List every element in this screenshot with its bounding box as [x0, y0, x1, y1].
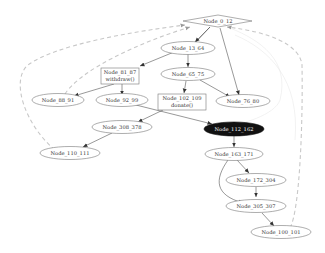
node-label: Node_305_307: [236, 203, 275, 210]
node-305-307[interactable]: Node_305_307: [226, 200, 286, 213]
node-65-75[interactable]: Node_65_75: [161, 68, 215, 81]
node-sublabel: withdraw(): [106, 76, 135, 82]
node-92-99[interactable]: Node_92_99: [96, 94, 148, 107]
node-110-111[interactable]: Node_110_111: [40, 147, 100, 160]
node-13-64[interactable]: Node_13_64: [161, 42, 215, 55]
node-76-80[interactable]: Node_76_80: [216, 95, 270, 108]
node-label: Node_65_75: [172, 71, 204, 78]
node-0-12[interactable]: Node_0_12: [183, 15, 252, 27]
node-label: Node_100_101: [261, 229, 300, 236]
node-88-91[interactable]: Node_88_91: [32, 94, 84, 107]
graph-canvas: Node_0_12 Node_13_64 Node_81_87 withdraw…: [0, 0, 325, 253]
node-100-101[interactable]: Node_100_101: [251, 226, 311, 239]
node-308-378[interactable]: Node_308_378: [92, 121, 152, 134]
node-label: Node_76_80: [227, 98, 259, 105]
node-sublabel: donate(): [171, 102, 193, 108]
node-label: Node_163_171: [214, 151, 253, 158]
node-label: Node_13_64: [172, 45, 205, 52]
node-label: Node_112_162: [214, 126, 253, 133]
node-112-162[interactable]: Node_112_162: [204, 122, 264, 136]
node-81-87[interactable]: Node_81_87 withdraw(): [101, 68, 139, 84]
node-label: Node_88_91: [42, 97, 74, 104]
node-label: Node_308_378: [102, 124, 141, 131]
node-label: Node_0_12: [203, 18, 232, 25]
node-label: Node_110_111: [50, 150, 89, 157]
node-172-304[interactable]: Node_172_304: [226, 174, 286, 187]
node-label: Node_92_99: [106, 97, 138, 104]
node-102-109[interactable]: Node_102_109 donate(): [158, 94, 206, 110]
node-label: Node_172_304: [236, 177, 276, 184]
node-163-171[interactable]: Node_163_171: [205, 148, 263, 161]
